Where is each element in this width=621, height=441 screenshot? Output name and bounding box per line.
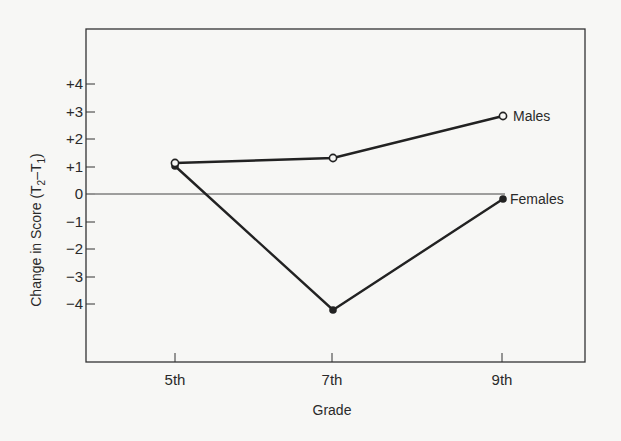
series-label-females: Females (510, 191, 564, 207)
series-label-males: Males (513, 108, 550, 124)
y-tick-label: +3 (66, 103, 83, 120)
y-tick-label: +1 (66, 158, 83, 175)
data-point-open (329, 154, 336, 161)
y-axis: +4 +3 +2 +1 0 −1 −2 −3 −4 (66, 75, 95, 312)
x-tick-label: 5th (165, 371, 186, 388)
x-axis: 5th 7th 9th (165, 353, 513, 388)
y-tick-label: −3 (66, 268, 83, 285)
x-tick-label: 7th (322, 371, 343, 388)
line-chart: +4 +3 +2 +1 0 −1 −2 −3 −4 Change in Scor… (0, 0, 621, 441)
series-females: Females (171, 162, 563, 314)
y-tick-label: −4 (66, 295, 83, 312)
y-axis-title: Change in Score (T2–T1) (28, 153, 47, 307)
data-point-open (499, 112, 506, 119)
x-axis-title: Grade (313, 402, 352, 418)
y-tick-label: +4 (66, 75, 83, 92)
data-point-open (171, 159, 178, 166)
series-males: Males (171, 108, 550, 167)
y-tick-label: +2 (66, 130, 83, 147)
y-tick-label: 0 (75, 185, 83, 202)
data-point-filled (329, 306, 337, 314)
y-tick-label: −2 (66, 240, 83, 257)
data-point-filled (499, 195, 507, 203)
x-tick-label: 9th (492, 371, 513, 388)
y-tick-label: −1 (66, 213, 83, 230)
